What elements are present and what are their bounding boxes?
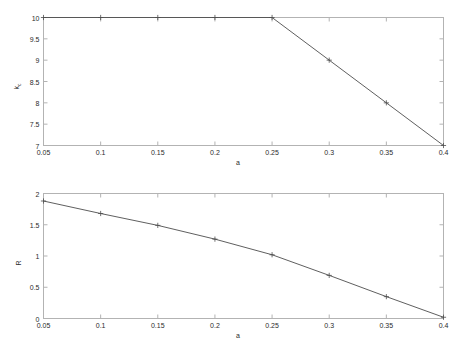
x-tick-label: 0.35 bbox=[380, 149, 394, 156]
figure-canvas: kc a 0.050.10.150.20.250.30.350.4 77.588… bbox=[0, 0, 455, 355]
top-axes-box bbox=[44, 18, 444, 146]
x-tick-label: 0.3 bbox=[324, 322, 334, 329]
top-y-axis-label-text: k bbox=[13, 86, 20, 90]
bottom-plot-svg bbox=[0, 180, 455, 355]
y-tick-label: 8.5 bbox=[18, 78, 40, 85]
y-tick-label: 9.5 bbox=[18, 35, 40, 42]
bottom-x-axis-label: a bbox=[223, 332, 253, 339]
x-tick-label: 0.1 bbox=[96, 322, 106, 329]
top-x-axis-label: a bbox=[223, 159, 253, 166]
x-tick-label: 0.1 bbox=[96, 149, 106, 156]
x-tick-label: 0.25 bbox=[265, 322, 279, 329]
y-tick-label: 1 bbox=[18, 253, 40, 260]
y-tick-label: 7.5 bbox=[18, 121, 40, 128]
y-tick-label: 10 bbox=[18, 14, 40, 21]
y-tick-label: 0 bbox=[18, 315, 40, 322]
x-tick-label: 0.2 bbox=[210, 322, 220, 329]
x-tick-label: 0.05 bbox=[37, 149, 51, 156]
x-tick-label: 0.05 bbox=[37, 322, 51, 329]
x-tick-label: 0.15 bbox=[151, 149, 165, 156]
bottom-data-series bbox=[41, 198, 446, 319]
x-tick-label: 0.4 bbox=[439, 322, 449, 329]
x-tick-label: 0.35 bbox=[380, 322, 394, 329]
x-tick-label: 0.4 bbox=[439, 149, 449, 156]
bottom-axes-box bbox=[44, 194, 444, 319]
y-tick-label: 8 bbox=[18, 99, 40, 106]
x-tick-label: 0.25 bbox=[265, 149, 279, 156]
bottom-axes-frame bbox=[44, 194, 444, 319]
top-data-series bbox=[41, 15, 446, 148]
y-tick-label: 0.5 bbox=[18, 284, 40, 291]
x-tick-label: 0.3 bbox=[324, 149, 334, 156]
y-tick-label: 9 bbox=[18, 57, 40, 64]
x-tick-label: 0.15 bbox=[151, 322, 165, 329]
bottom-plot-panel: R a 0.050.10.150.20.250.30.350.4 00.511.… bbox=[0, 180, 455, 355]
top-plot-panel: kc a 0.050.10.150.20.250.30.350.4 77.588… bbox=[0, 0, 455, 180]
y-tick-label: 2 bbox=[18, 190, 40, 197]
bottom-y-axis-label-text: R bbox=[15, 260, 22, 265]
top-axes-frame bbox=[44, 18, 444, 146]
y-tick-label: 1.5 bbox=[18, 221, 40, 228]
y-tick-label: 7 bbox=[18, 142, 40, 149]
top-tick-marks bbox=[44, 18, 444, 146]
bottom-tick-marks bbox=[44, 194, 444, 319]
x-tick-label: 0.2 bbox=[210, 149, 220, 156]
